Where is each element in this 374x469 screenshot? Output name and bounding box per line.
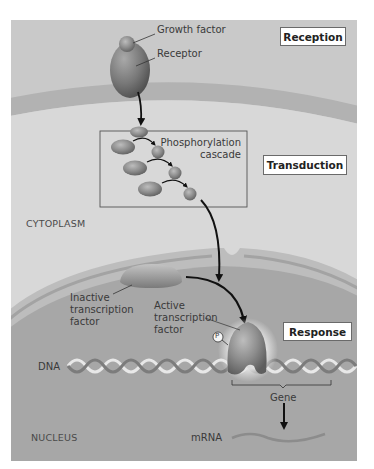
cascade-label-line1: Phosphorylation: [160, 137, 241, 148]
mrna-label: mRNA: [191, 432, 222, 443]
dna-label: DNA: [38, 361, 60, 372]
cytoplasm-label: CYTOPLASM: [26, 218, 85, 229]
stage-transduction: Transduction: [263, 155, 347, 175]
nucleus-label: NUCLEUS: [31, 432, 77, 443]
phosphate-label: P: [215, 332, 219, 340]
inactive-tf-label-line2: transcription: [70, 304, 134, 315]
cascade-label-line2: cascade: [160, 149, 241, 160]
stage-response: Response: [283, 322, 352, 341]
signaling-diagram: [0, 0, 374, 469]
inactive-tf-label-line3: factor: [70, 316, 99, 327]
inactive-tf-label-line1: Inactive: [70, 292, 110, 303]
growth-factor-label: Growth factor: [157, 24, 226, 35]
receptor-label: Receptor: [157, 48, 202, 59]
active-tf-label-line2: transcription: [154, 312, 218, 323]
growth-factor: [119, 36, 135, 52]
stage-reception: Reception: [280, 27, 346, 46]
gene-label: Gene: [270, 392, 296, 403]
active-tf-label-line1: Active: [154, 300, 185, 311]
active-tf-label-line3: factor: [154, 324, 183, 335]
